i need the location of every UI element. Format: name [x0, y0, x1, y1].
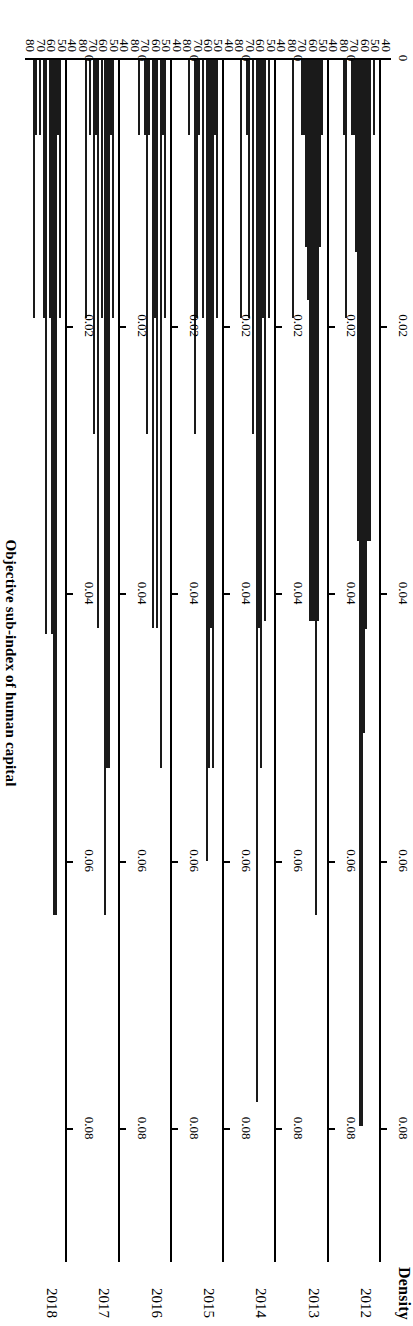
density-tick — [380, 326, 387, 328]
panel-year-label: 2018 — [43, 1288, 60, 1318]
histogram-bar — [39, 60, 41, 135]
density-axis-2018: 00.020.040.060.08 — [65, 58, 77, 1262]
bars-2012 — [339, 60, 379, 1262]
bars-2015 — [182, 60, 222, 1262]
histogram-bar — [51, 60, 53, 634]
histogram-bar — [85, 60, 87, 318]
density-tick — [119, 1128, 126, 1130]
density-tick-label: 0.08 — [238, 1117, 254, 1140]
density-tick-label: 0.02 — [395, 314, 411, 337]
histogram-bar — [156, 60, 158, 628]
histogram-bar — [307, 60, 309, 300]
density-tick — [275, 1128, 282, 1130]
histogram-bar — [246, 60, 248, 135]
plot-area-2016: 00.020.040.060.08 — [130, 58, 182, 1262]
density-tick — [223, 1128, 230, 1130]
density-axis-2016: 00.020.040.060.08 — [170, 58, 182, 1262]
histogram-bar — [361, 60, 363, 1126]
bars-2014 — [234, 60, 274, 1262]
histogram-bar — [112, 60, 114, 318]
histogram-bar — [110, 60, 112, 135]
density-tick-label: 0.06 — [134, 849, 150, 872]
density-tick — [66, 593, 73, 595]
histogram-bar — [252, 60, 254, 434]
histogram-bar — [188, 60, 190, 135]
histogram-bar — [301, 60, 303, 135]
histogram-bar — [198, 60, 200, 135]
histogram-bar — [303, 60, 305, 135]
histogram-bar — [49, 60, 51, 318]
density-tick-label: 0.08 — [343, 1117, 359, 1140]
bars-2013 — [286, 60, 326, 1262]
bin-axis-2017: 4050607080 — [77, 0, 129, 58]
density-tick — [171, 861, 178, 863]
bars-2017 — [77, 60, 117, 1262]
histogram-bar — [216, 60, 218, 318]
density-tick — [328, 1128, 335, 1130]
density-tick — [223, 861, 230, 863]
density-tick — [223, 593, 230, 595]
density-tick-label: 0.04 — [81, 582, 97, 605]
histogram-bar — [160, 60, 162, 768]
density-tick — [380, 1128, 387, 1130]
density-tick-label: 0 — [134, 55, 150, 62]
histogram-bar — [311, 60, 313, 621]
histogram-bar — [196, 60, 198, 318]
histogram-bar — [248, 60, 250, 318]
histogram-bar — [359, 60, 361, 1126]
density-axis-2014: 00.020.040.060.08 — [274, 58, 286, 1262]
histogram-bar — [106, 60, 108, 768]
density-tick — [119, 58, 126, 60]
histogram-bar — [317, 60, 319, 621]
density-tick-label: 0 — [290, 55, 306, 62]
density-tick-label: 0.04 — [186, 582, 202, 605]
density-tick-label: 0 — [186, 55, 202, 62]
histogram-bar — [293, 60, 295, 318]
histogram-bar — [194, 60, 196, 434]
density-tick-label: 0.08 — [395, 1117, 411, 1140]
density-tick-label: 0.02 — [81, 314, 97, 337]
density-axis-2013: 00.020.040.060.08 — [327, 58, 339, 1262]
histogram-bar — [89, 60, 91, 135]
density-tick-label: 0.06 — [290, 849, 306, 872]
histogram-bar — [319, 60, 321, 247]
density-tick — [380, 58, 387, 60]
histogram-bar — [206, 60, 208, 861]
histogram-bar — [102, 60, 104, 318]
density-tick-label: 0.02 — [343, 314, 359, 337]
plot-area-2017: 00.020.040.060.08 — [77, 58, 129, 1262]
histogram-bar — [256, 60, 258, 1102]
density-tick-label: 0.06 — [186, 849, 202, 872]
human-capital-axis-title: Objective sub-index of human capital — [2, 0, 19, 1326]
histogram-bar — [345, 60, 347, 318]
bin-axis-2016: 4050607080 — [130, 0, 182, 58]
histogram-bar — [148, 60, 150, 135]
density-tick — [66, 861, 73, 863]
histogram-bar — [315, 60, 317, 915]
histogram-bar — [305, 60, 307, 247]
panel-year-label: 2013 — [304, 1288, 321, 1318]
density-tick-label: 0.04 — [238, 582, 254, 605]
density-tick-label: 0.06 — [343, 849, 359, 872]
density-tick — [119, 593, 126, 595]
density-tick — [171, 593, 178, 595]
histogram-bar — [164, 60, 166, 318]
plot-area-2012: 00.020.040.060.08 — [339, 58, 391, 1262]
bin-axis-2015: 4050607080 — [182, 0, 234, 58]
density-axis-2015: 00.020.040.060.08 — [222, 58, 234, 1262]
histogram-bar — [214, 60, 216, 135]
histogram-bar — [264, 60, 266, 621]
density-tick-label: 0.02 — [290, 314, 306, 337]
density-tick — [275, 326, 282, 328]
histogram-bar — [357, 60, 359, 541]
histogram-bar — [367, 60, 369, 541]
density-tick-label: 0.04 — [134, 582, 150, 605]
bars-2016 — [130, 60, 170, 1262]
density-tick — [275, 861, 282, 863]
histogram-bar — [138, 60, 140, 135]
density-tick-label: 0 — [343, 55, 359, 62]
density-tick-label: 0.08 — [290, 1117, 306, 1140]
plot-area-2013: 00.020.040.060.08 — [286, 58, 338, 1262]
histogram-bar — [35, 60, 37, 135]
histogram-bar — [240, 60, 242, 318]
